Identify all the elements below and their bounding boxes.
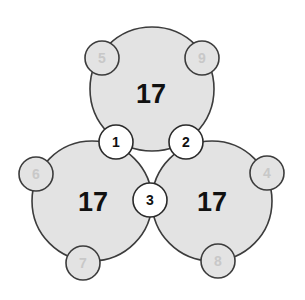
outer-node-label: 4	[263, 165, 271, 181]
shared-node-label: 2	[182, 134, 190, 150]
outer-node-label: 6	[32, 166, 40, 182]
shared-node-2: 2	[169, 125, 203, 159]
outer-node-9: 9	[185, 41, 219, 75]
shared-node-3: 3	[133, 183, 167, 217]
outer-node-8: 8	[201, 244, 235, 278]
outer-node-4: 4	[250, 156, 284, 190]
right-sum: 17	[197, 187, 227, 217]
outer-node-label: 8	[214, 253, 222, 269]
outer-node-5: 5	[85, 41, 119, 75]
outer-node-6: 6	[19, 157, 53, 191]
shared-node-label: 1	[112, 134, 120, 150]
shared-node-label: 3	[146, 192, 154, 208]
outer-node-label: 9	[198, 50, 206, 66]
top-sum: 17	[136, 79, 166, 109]
magic-circles-diagram: 17 17 17 5 9 6 7 4 8 1 2 3	[0, 0, 305, 300]
left-sum: 17	[78, 187, 108, 217]
outer-node-label: 7	[79, 255, 87, 271]
outer-node-7: 7	[66, 246, 100, 280]
outer-node-label: 5	[98, 50, 106, 66]
shared-node-1: 1	[99, 125, 133, 159]
